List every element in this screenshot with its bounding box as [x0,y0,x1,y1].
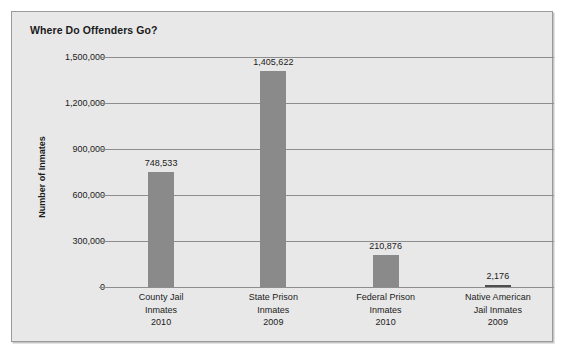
x-category-line: Inmates [321,304,451,317]
x-category-line: Federal Prison [321,291,451,304]
y-tick-label: 900,000 [33,144,105,154]
x-category-label: State PrisonInmates2009 [208,291,338,329]
x-category-label: County JailInmates2010 [96,291,226,329]
x-category-line: Jail Inmates [433,304,563,317]
x-category-line: 2009 [208,316,338,329]
x-category-line: 2010 [321,316,451,329]
chart-title: Where Do Offenders Go? [30,24,158,36]
x-category-line: Inmates [96,304,226,317]
gridline-1200000 [105,103,554,104]
y-tick-label: 1,500,000 [33,52,105,62]
bar-value-label: 1,405,622 [253,57,293,67]
gridline-900000 [105,149,554,150]
x-category-label: Native AmericanJail Inmates2009 [433,291,563,329]
bar-value-label: 748,533 [145,158,178,168]
x-category-line: Inmates [208,304,338,317]
y-axis: 0300,000600,000900,0001,200,0001,500,000 [20,57,105,287]
x-category-line: 2010 [96,316,226,329]
x-axis-labels: County JailInmates2010State PrisonInmate… [105,291,554,341]
bar-value-label: 210,876 [369,241,402,251]
y-tick-label: 600,000 [33,190,105,200]
chart-figure: Where Do Offenders Go? Number of Inmates… [0,0,565,353]
bar-value-label: 2,176 [487,271,510,281]
chart-panel: Where Do Offenders Go? Number of Inmates… [11,11,553,342]
x-category-line: State Prison [208,291,338,304]
plot-area: 748,5331,405,622210,8762,176 [105,57,554,287]
x-category-line: Native American [433,291,563,304]
x-category-line: County Jail [96,291,226,304]
x-category-label: Federal PrisonInmates2010 [321,291,451,329]
bar-0 [148,172,174,287]
y-tick-label: 300,000 [33,236,105,246]
y-tick-label: 0 [33,282,105,292]
y-tick-label: 1,200,000 [33,98,105,108]
gridline-1500000 [105,57,554,58]
x-category-line: 2009 [433,316,563,329]
bar-2 [373,255,399,287]
bar-3 [485,285,511,288]
gridline-0 [105,287,554,288]
bar-1 [260,71,286,287]
